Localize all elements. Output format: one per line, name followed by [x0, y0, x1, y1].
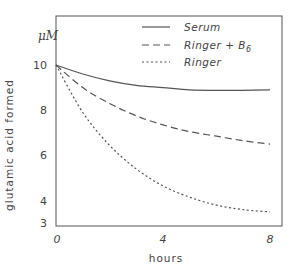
y-tick-label: 8: [40, 104, 47, 117]
x-tick-labels: 048: [54, 233, 274, 246]
legend-label-ringer: Ringer: [184, 56, 221, 68]
x-axis-title: hours: [149, 252, 184, 264]
y-axis-title: glutamic acid formed: [3, 79, 15, 211]
x-tick-label: 8: [267, 233, 274, 246]
legend: Serum Ringer + B6 Ringer: [142, 21, 252, 68]
y-tick-label: 10: [33, 59, 47, 72]
line-chart: 346810 048 μM glutamic acid formed hours…: [0, 0, 296, 275]
series-serum: [56, 65, 270, 90]
legend-label-serum: Serum: [184, 21, 221, 33]
series-layer: [56, 65, 270, 212]
y-unit-label: μM: [38, 29, 59, 43]
y-tick-label: 4: [40, 195, 47, 208]
legend-label-ringer-b6: Ringer + B6: [184, 39, 252, 54]
y-tick-label: 3: [40, 217, 47, 230]
y-tick-label: 6: [40, 149, 47, 162]
y-tick-labels: 346810: [33, 59, 47, 230]
series-ringer-b6: [56, 65, 270, 144]
x-tick-label: 4: [160, 233, 167, 246]
x-tick-label: 0: [54, 233, 61, 246]
